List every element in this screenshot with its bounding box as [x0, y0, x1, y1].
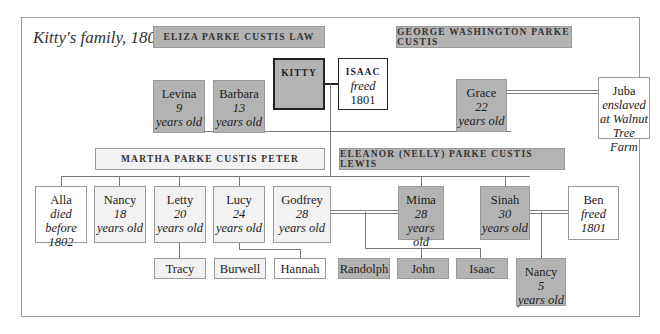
person-age-unit: years old — [518, 293, 564, 307]
godfrey-mima-descent-line — [365, 212, 366, 248]
hannah-drop-line — [300, 249, 301, 258]
person-sinah: Sinah 30 years old — [480, 186, 530, 240]
person-status: died before — [36, 207, 86, 235]
person-name: Levina — [162, 87, 197, 101]
letty-descent-line — [179, 242, 180, 258]
person-name: Juba — [613, 84, 636, 98]
person-year: 1802 — [49, 235, 74, 249]
kitty-descent-line — [330, 84, 331, 176]
person-levina: Levina 9 years old — [153, 80, 205, 133]
person-lucy: Lucy 24 years old — [213, 186, 265, 243]
person-age-unit: years old — [157, 221, 203, 235]
person-location: Tree Farm — [599, 126, 649, 154]
nancy18-drop-line — [119, 176, 120, 186]
person-name: Isaac — [469, 262, 495, 276]
person-age: 13 — [233, 101, 246, 115]
person-nancy-18: Nancy 18 years old — [94, 186, 146, 243]
lucy-children-line — [239, 249, 300, 250]
person-age: 22 — [475, 100, 488, 114]
person-mima: Mima 28 years old — [398, 186, 444, 240]
person-name: Letty — [167, 193, 193, 207]
person-name: KITTY — [281, 66, 317, 80]
person-age-unit: years old — [216, 221, 262, 235]
person-name: Sinah — [491, 193, 519, 207]
sinah-descent-line — [541, 212, 542, 258]
person-name: Tracy — [166, 262, 195, 276]
person-age: 18 — [114, 207, 127, 221]
person-name: Alla — [50, 193, 72, 207]
john-drop-line — [421, 248, 422, 258]
owner-martha-banner: MARTHA PARKE CUSTIS PETER — [95, 148, 325, 170]
isaac-jr-drop-line — [480, 248, 481, 258]
person-location: at Walnut — [600, 112, 648, 126]
kitty-isaac-union-line — [324, 83, 338, 85]
person-age-unit: years old — [458, 114, 504, 128]
person-juba: Juba enslaved at Walnut Tree Farm — [598, 77, 650, 139]
person-year: 1801 — [581, 221, 606, 235]
person-status: freed — [350, 79, 375, 93]
person-name: Nancy — [104, 193, 137, 207]
sinah-drop-line — [505, 176, 506, 186]
person-ben: Ben freed 1801 — [568, 186, 619, 240]
person-name: Barbara — [219, 87, 259, 101]
owner-eleanor-banner: ELEANOR (NELLY) PARKE CUSTIS LEWIS — [339, 148, 565, 170]
person-age: 28 — [296, 207, 309, 221]
person-name: Godfrey — [281, 193, 323, 207]
person-age-unit: years old — [97, 221, 143, 235]
person-age: 24 — [233, 207, 246, 221]
lucy-drop-line — [239, 176, 240, 186]
person-john: John — [397, 258, 449, 279]
person-tracy: Tracy — [154, 258, 206, 279]
person-age: 30 — [499, 207, 512, 221]
sinah-ben-marriage-line — [530, 210, 568, 214]
person-name: Burwell — [220, 262, 260, 276]
diagram-title: Kitty's family, 1802 — [33, 28, 165, 48]
person-hannah: Hannah — [274, 258, 326, 279]
person-age-unit: years old — [399, 221, 443, 249]
person-name: ISAAC — [346, 65, 381, 79]
person-age: 9 — [176, 101, 182, 115]
person-age: 28 — [415, 207, 428, 221]
person-name: Nancy — [525, 265, 558, 279]
person-alla: Alla died before 1802 — [35, 186, 87, 243]
person-name: John — [411, 262, 435, 276]
person-name: Ben — [583, 193, 603, 207]
person-age-unit: years old — [279, 221, 325, 235]
lower-sibling-line — [61, 176, 530, 177]
person-isaac-jr: Isaac — [456, 258, 508, 279]
person-isaac-sr: ISAAC freed 1801 — [338, 58, 388, 110]
person-letty: Letty 20 years old — [154, 186, 206, 243]
mima-drop-line — [421, 176, 422, 186]
person-age: 5 — [538, 279, 544, 293]
person-barbara: Barbara 13 years old — [213, 80, 265, 133]
person-year: 1801 — [351, 93, 376, 107]
person-burwell: Burwell — [214, 258, 266, 279]
person-age-unit: years old — [216, 115, 262, 129]
grace-juba-marriage-line — [507, 90, 598, 94]
person-age: 20 — [174, 207, 187, 221]
letty-drop-line — [179, 176, 180, 186]
person-kitty: KITTY — [273, 58, 325, 110]
alla-drop-line — [61, 176, 62, 186]
person-age-unit: years old — [156, 115, 202, 129]
person-godfrey: Godfrey 28 years old — [273, 186, 331, 243]
person-status: freed — [581, 207, 606, 221]
person-age-unit: years old — [482, 221, 528, 235]
person-name: Mima — [406, 193, 436, 207]
owner-george-banner: GEORGE WASHINGTON PARKE CUSTIS — [396, 26, 572, 48]
person-name: Hannah — [281, 262, 320, 276]
person-name: Randolph — [340, 262, 389, 276]
person-name: Lucy — [226, 193, 252, 207]
person-grace: Grace 22 years old — [456, 79, 507, 132]
owner-eliza-banner: ELIZA PARKE CUSTIS LAW — [153, 26, 325, 48]
person-nancy-5: Nancy 5 years old — [516, 258, 566, 306]
person-status: enslaved — [602, 98, 646, 112]
person-randolph: Randolph — [338, 258, 390, 279]
person-name: Grace — [467, 86, 497, 100]
